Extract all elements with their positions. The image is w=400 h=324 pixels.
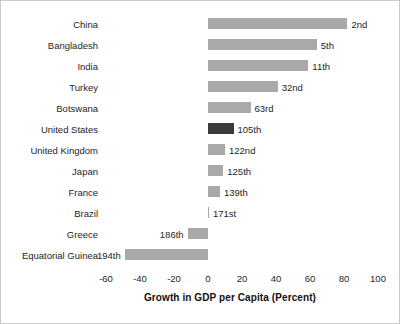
bar-row: Japan125th	[1, 160, 400, 181]
bar-row: Bangladesh5th	[1, 34, 400, 55]
bar-row: China2nd	[1, 13, 400, 34]
bar[interactable]	[208, 207, 209, 218]
bar-row: Greece186th	[1, 223, 400, 244]
bar-row: Brazil171st	[1, 202, 400, 223]
bar-row: United States105th	[1, 118, 400, 139]
bar-track: 2nd	[1, 13, 400, 34]
bar[interactable]	[208, 81, 278, 92]
bar-row: India11th	[1, 55, 400, 76]
bar-row: Equatorial Guinea194th	[1, 244, 400, 265]
rank-label: 32nd	[282, 81, 303, 92]
x-tick-label: -20	[167, 273, 181, 285]
x-tick-label: -40	[133, 273, 147, 285]
bar[interactable]	[208, 144, 225, 155]
rank-label: 2nd	[351, 18, 367, 29]
bar-track: 125th	[1, 160, 400, 181]
bar-track: 63rd	[1, 97, 400, 118]
bar[interactable]	[208, 60, 308, 71]
x-tick-label: 0	[205, 273, 210, 285]
bar-row: France139th	[1, 181, 400, 202]
bar-track: 122nd	[1, 139, 400, 160]
bar[interactable]	[208, 102, 251, 113]
bar[interactable]	[208, 165, 223, 176]
rank-label: 171st	[213, 207, 236, 218]
x-tick-label: 20	[237, 273, 248, 285]
x-axis-title: Growth in GDP per Capita (Percent)	[1, 292, 400, 303]
bar[interactable]	[188, 228, 208, 239]
bar-track: 32nd	[1, 76, 400, 97]
bar[interactable]	[208, 18, 347, 29]
bar-track: 5th	[1, 34, 400, 55]
bar-track: 139th	[1, 181, 400, 202]
bar-highlighted[interactable]	[208, 123, 234, 134]
bar-track: 186th	[1, 223, 400, 244]
bar[interactable]	[208, 186, 220, 197]
plot-area: China2ndBangladesh5thIndia11thTurkey32nd…	[1, 13, 400, 265]
rank-label: 11th	[312, 60, 330, 71]
x-tick-label: 40	[271, 273, 282, 285]
rank-label: 194th	[97, 249, 121, 260]
rank-label: 125th	[227, 165, 251, 176]
rank-label: 5th	[321, 39, 334, 50]
bar[interactable]	[208, 39, 317, 50]
x-tick-label: 60	[305, 273, 316, 285]
bar[interactable]	[125, 249, 208, 260]
x-tick-label: -60	[99, 273, 113, 285]
bar-track: 194th	[1, 244, 400, 265]
bar-row: Turkey32nd	[1, 76, 400, 97]
rank-label: 139th	[224, 186, 248, 197]
rank-label: 186th	[160, 228, 184, 239]
rank-label: 122nd	[229, 144, 255, 155]
x-axis-title-text: Growth in GDP per Capita (Percent)	[144, 292, 316, 303]
rank-label: 63rd	[255, 102, 274, 113]
x-tick-label: 80	[339, 273, 350, 285]
bar-track: 105th	[1, 118, 400, 139]
bar-row: Botswana63rd	[1, 97, 400, 118]
bar-row: United Kingdom122nd	[1, 139, 400, 160]
x-tick-label: 100	[370, 273, 386, 285]
bar-track: 171st	[1, 202, 400, 223]
rank-label: 105th	[238, 123, 262, 134]
bar-track: 11th	[1, 55, 400, 76]
x-axis: -60-40-20020406080100	[1, 273, 400, 289]
gdp-growth-bar-chart: China2ndBangladesh5thIndia11thTurkey32nd…	[0, 0, 400, 324]
